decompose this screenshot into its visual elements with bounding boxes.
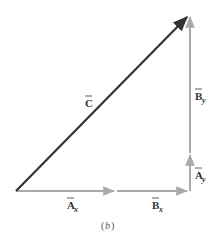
- label-By: B y: [195, 89, 206, 105]
- vector-C: [16, 17, 187, 191]
- vector-addition-diagram: C B y A y A x B x ( b ): [0, 0, 214, 237]
- figure-caption: ( b ): [101, 220, 114, 232]
- label-C: C: [85, 96, 93, 109]
- label-Bx-sub: x: [158, 205, 163, 214]
- label-Ay-sub: y: [201, 175, 206, 184]
- label-C-text: C: [85, 97, 93, 109]
- caption-close: ): [111, 220, 114, 232]
- label-By-sub: y: [201, 96, 206, 105]
- label-Ay: A y: [195, 168, 206, 184]
- label-Bx: B x: [152, 198, 163, 214]
- caption-letter: b: [105, 220, 110, 231]
- label-Ax: A x: [67, 198, 78, 214]
- label-Ax-sub: x: [73, 205, 78, 214]
